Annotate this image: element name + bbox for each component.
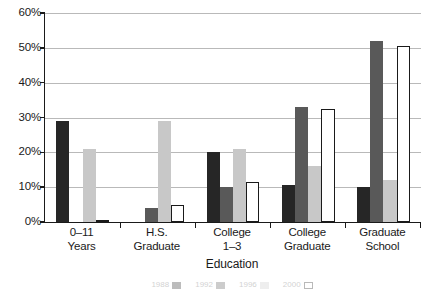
x-axis-category-label-line1: Graduate xyxy=(359,226,405,238)
x-axis-category-label-line1: H.S. xyxy=(146,226,168,238)
x-axis-category-label: College1–3 xyxy=(194,226,269,253)
x-axis-category-label: GraduateSchool xyxy=(345,226,420,253)
bar xyxy=(233,149,246,222)
x-axis-category-label-line1: College xyxy=(213,226,251,238)
legend-swatch xyxy=(260,282,269,289)
bar xyxy=(207,152,220,222)
x-axis-category-label: H.S.Graduate xyxy=(119,226,194,253)
legend-swatch xyxy=(172,282,181,289)
bar xyxy=(282,185,295,222)
x-axis-category-label-line2: Graduate xyxy=(119,240,194,254)
x-axis-title: Education xyxy=(44,257,420,271)
legend-swatch xyxy=(216,282,225,289)
legend-label: 2000 xyxy=(283,281,301,289)
bar xyxy=(145,208,158,222)
legend-entry: 2000 xyxy=(283,281,313,289)
x-axis-category-label-line2: Years xyxy=(44,240,119,254)
y-axis-tick-label: 60% xyxy=(3,7,41,19)
bar xyxy=(158,121,171,222)
x-axis-category-labels: 0–11YearsH.S.GraduateCollege1–3CollegeGr… xyxy=(44,226,420,258)
x-axis-category-label: CollegeGraduate xyxy=(270,226,345,253)
legend-label: 1996 xyxy=(239,281,257,289)
bar xyxy=(357,187,370,222)
bar-chart: 0%10%20%30%40%50%60% 0–11YearsH.S.Gradua… xyxy=(0,0,428,289)
bar xyxy=(56,121,69,222)
y-axis-tick-label: 20% xyxy=(3,146,41,158)
bar xyxy=(370,41,383,222)
bar xyxy=(96,220,109,222)
bar xyxy=(383,180,396,222)
x-axis-category-label-line2: Graduate xyxy=(270,240,345,254)
bar xyxy=(321,109,334,222)
legend-entry: 1996 xyxy=(239,281,269,289)
bar xyxy=(83,149,96,222)
legend-entry: 1992 xyxy=(195,281,225,289)
bars-layer xyxy=(45,13,421,222)
bar xyxy=(220,187,233,222)
y-axis-tick-label: 30% xyxy=(3,112,41,124)
y-axis-tick-label: 50% xyxy=(3,42,41,54)
x-axis-category-label-line2: School xyxy=(345,240,420,254)
y-axis-tick-labels: 0%10%20%30%40%50%60% xyxy=(0,0,41,289)
legend-label: 1992 xyxy=(195,281,213,289)
x-axis-category-label-line2: 1–3 xyxy=(194,240,269,254)
legend-swatch xyxy=(304,282,313,289)
y-axis-tick-label: 10% xyxy=(3,181,41,193)
bar xyxy=(246,182,259,222)
legend-entry: 1988 xyxy=(151,281,181,289)
bar xyxy=(295,107,308,222)
bar xyxy=(171,205,184,222)
y-axis-tick-label: 40% xyxy=(3,77,41,89)
plot-area xyxy=(44,13,421,223)
y-axis-tick-label: 0% xyxy=(3,216,41,228)
chart-legend: 1988199219962000 xyxy=(44,281,420,289)
legend-label: 1988 xyxy=(151,281,169,289)
bar xyxy=(308,166,321,222)
x-axis-category-label-line1: College xyxy=(288,226,326,238)
x-axis-category-label-line1: 0–11 xyxy=(70,226,94,238)
bar xyxy=(397,46,410,222)
x-axis-category-label: 0–11Years xyxy=(44,226,119,253)
